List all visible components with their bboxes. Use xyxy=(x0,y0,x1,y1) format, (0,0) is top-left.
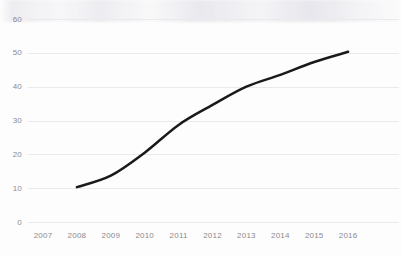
y-tick-label-50: 50 xyxy=(0,48,22,57)
x-tick-label-2009: 2009 xyxy=(94,231,128,240)
x-tick-label-2013: 2013 xyxy=(229,231,263,240)
chart-plot-area xyxy=(0,0,401,256)
x-tick-label-2010: 2010 xyxy=(128,231,162,240)
x-tick-label-2008: 2008 xyxy=(60,231,94,240)
y-tick-label-40: 40 xyxy=(0,82,22,91)
x-tick-label-2011: 2011 xyxy=(162,231,196,240)
y-tick-label-60: 60 xyxy=(0,15,22,24)
x-tick-label-2014: 2014 xyxy=(263,231,297,240)
series-line-0 xyxy=(77,52,348,187)
y-tick-label-20: 20 xyxy=(0,150,22,159)
y-tick-label-0: 0 xyxy=(0,218,22,227)
gridlines xyxy=(28,20,399,223)
series-group xyxy=(77,52,348,187)
y-tick-label-30: 30 xyxy=(0,116,22,125)
x-tick-label-2016: 2016 xyxy=(331,231,365,240)
x-tick-label-2007: 2007 xyxy=(26,231,60,240)
y-tick-label-10: 10 xyxy=(0,184,22,193)
x-tick-label-2015: 2015 xyxy=(297,231,331,240)
line-chart: 0102030405060 20072008200920102011201220… xyxy=(0,0,401,256)
x-tick-label-2012: 2012 xyxy=(196,231,230,240)
